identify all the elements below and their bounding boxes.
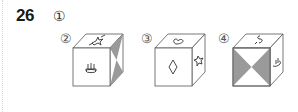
option-cube-3[interactable] [152,30,212,90]
option-cube-4[interactable] [230,30,290,90]
question-number: 26 [16,6,34,26]
page-margin-divider [2,0,3,112]
option-cube-2[interactable] [70,30,130,90]
prompt-marker: ① [53,9,66,23]
option-label-4[interactable]: ④ [218,32,230,45]
